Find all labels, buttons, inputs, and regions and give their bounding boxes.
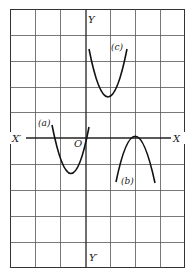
x-axis-label-left: X′ xyxy=(11,133,22,144)
x-axis-label-right: X xyxy=(172,133,181,144)
y-axis-label-top: Y xyxy=(88,14,96,25)
curve-a xyxy=(52,125,89,174)
curve-c xyxy=(89,49,127,97)
curve-a-label: (a) xyxy=(38,118,51,128)
origin-label: O xyxy=(74,138,82,149)
y-axis-label-bottom: Y′ xyxy=(89,252,99,263)
curve-b-label: (b) xyxy=(121,176,134,186)
graph-figure: Y Y′ X′ X O (a) (b) (c) xyxy=(0,0,192,273)
curve-c-label: (c) xyxy=(111,42,124,52)
